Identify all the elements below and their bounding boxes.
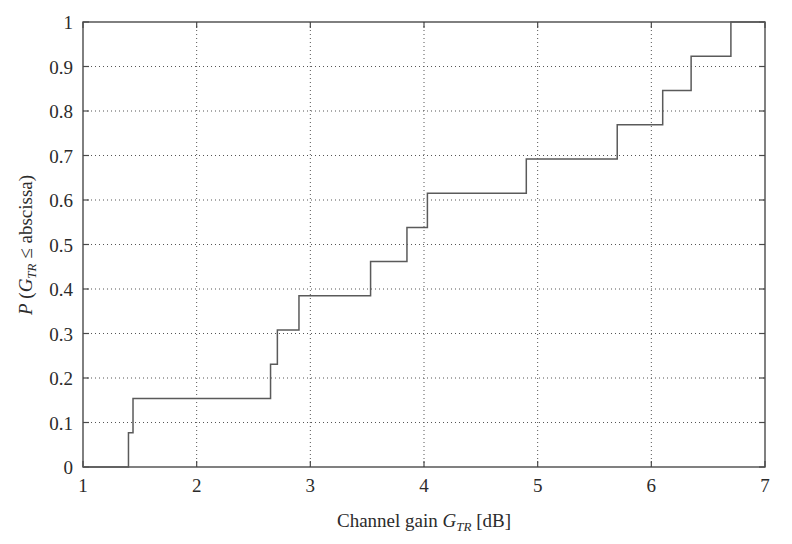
- x-tick-label: 4: [419, 475, 429, 496]
- y-axis-title: P (GTR ≤ abscissa): [15, 175, 39, 316]
- x-tick-label: 5: [533, 475, 543, 496]
- svg-text:Channel gain GTR [dB]: Channel gain GTR [dB]: [337, 510, 511, 534]
- y-tick-label: 0.8: [49, 101, 73, 122]
- x-tick-label: 1: [78, 475, 88, 496]
- x-tick-label: 7: [760, 475, 770, 496]
- y-tick-label: 0.2: [49, 368, 73, 389]
- svg-text:P (GTR ≤ abscissa): P (GTR ≤ abscissa): [15, 175, 39, 316]
- y-tick-label: 1: [64, 12, 74, 33]
- cdf-figure: 1234567 00.10.20.30.40.50.60.70.80.91 Ch…: [0, 0, 792, 544]
- y-tick-label: 0.4: [49, 279, 73, 300]
- y-tick-label: 0.1: [49, 413, 73, 434]
- x-axis-title: Channel gain GTR [dB]: [337, 510, 511, 534]
- y-tick-label: 0.9: [49, 57, 73, 78]
- figure-background: [0, 0, 792, 544]
- x-tick-label: 6: [647, 475, 657, 496]
- y-tick-label: 0.3: [49, 324, 73, 345]
- y-tick-label: 0.7: [49, 146, 73, 167]
- cdf-plot-svg: 1234567 00.10.20.30.40.50.60.70.80.91 Ch…: [0, 0, 792, 544]
- x-tick-label: 2: [192, 475, 202, 496]
- y-tick-label: 0: [64, 457, 74, 478]
- x-tick-label: 3: [306, 475, 316, 496]
- y-tick-label: 0.5: [49, 235, 73, 256]
- y-tick-label: 0.6: [49, 190, 73, 211]
